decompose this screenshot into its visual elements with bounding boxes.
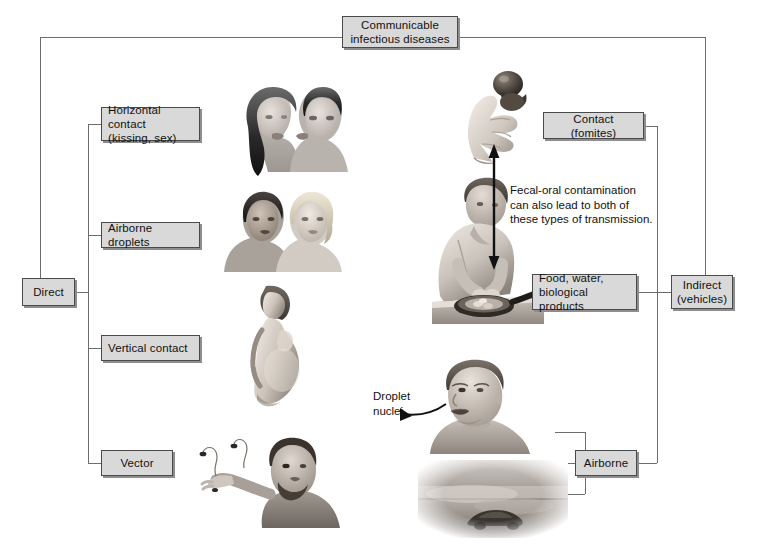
food-water-label-2: biological products — [539, 285, 630, 313]
vertical-contact-box: Vertical contact — [101, 335, 200, 361]
airborne-droplets-box: Airborne droplets — [101, 222, 200, 248]
bidirectional-transmission-arrow — [484, 142, 504, 272]
indirect-label-2: (vehicles) — [677, 292, 727, 306]
connector-right-riser — [705, 37, 706, 292]
connector-arm-horizontal-contact — [88, 124, 101, 125]
man-with-insect-illustration — [198, 424, 343, 528]
horizontal-contact-box: Horizontal contact (kissing, sex) — [101, 107, 200, 141]
title-box: Communicable infectious diseases — [342, 16, 458, 48]
direct-label: Direct — [33, 285, 64, 299]
contact-fomites-box: Contact (fomites) — [543, 112, 644, 139]
connector-arm-vector — [88, 463, 101, 464]
connector-left-riser — [40, 37, 41, 293]
two-women-talking-illustration — [212, 188, 350, 276]
dust-cloud-road-illustration — [418, 460, 568, 538]
airborne-droplets-label: Airborne droplets — [108, 221, 193, 249]
fecal-oral-line-2: can also lead to both of — [510, 198, 685, 213]
connector-airborne-sub-top — [555, 432, 585, 433]
connector-indirect-stem — [657, 292, 671, 293]
contact-fomites-label: Contact (fomites) — [550, 112, 637, 140]
diagram-canvas: Communicable infectious diseases Direct … — [0, 0, 758, 553]
horizontal-contact-label-2: (kissing, sex) — [108, 131, 177, 145]
airborne-box: Airborne — [575, 450, 637, 476]
pregnant-woman-illustration — [226, 282, 338, 408]
connector-left-bracket — [88, 124, 89, 464]
connector-right-bracket — [657, 126, 658, 463]
connector-arm-airborne-droplets — [88, 235, 101, 236]
title-line-2: infectious diseases — [350, 32, 449, 46]
connector-arm-airborne — [637, 463, 657, 464]
food-water-box: Food, water, biological products — [532, 274, 637, 310]
connector-arm-food-water — [637, 292, 657, 293]
fecal-oral-line-1: Fecal-oral contamination — [510, 183, 685, 198]
horizontal-contact-label-1: Horizontal contact — [108, 103, 193, 131]
droplet-nuclei-pointer-arrow — [398, 392, 460, 426]
fecal-oral-line-3: these types of transmission. — [510, 212, 685, 227]
vector-box: Vector — [101, 450, 173, 476]
fecal-oral-note: Fecal-oral contamination can also lead t… — [510, 183, 685, 227]
vector-label: Vector — [120, 456, 153, 470]
connector-arm-contact-fomites — [644, 126, 657, 127]
couple-kissing-illustration — [212, 76, 350, 182]
food-water-label-1: Food, water, — [539, 271, 603, 285]
connector-direct-stem — [75, 292, 89, 293]
indirect-label-1: Indirect — [683, 278, 722, 292]
vertical-contact-label: Vertical contact — [108, 341, 188, 355]
indirect-vehicles-box: Indirect (vehicles) — [671, 275, 733, 309]
connector-arm-vertical-contact — [88, 348, 101, 349]
title-line-1: Communicable — [361, 18, 439, 32]
direct-box: Direct — [22, 278, 75, 306]
airborne-label: Airborne — [584, 456, 628, 470]
